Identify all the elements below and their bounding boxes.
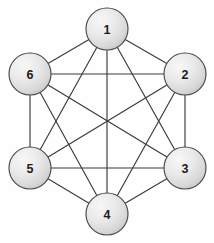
graph-diagram: 123456 <box>0 0 214 243</box>
graph-node-4[interactable]: 4 <box>86 193 128 235</box>
graph-canvas: 123456 <box>0 0 214 243</box>
node-circle-5[interactable] <box>9 147 51 189</box>
node-circle-6[interactable] <box>9 53 51 95</box>
graph-edge-1-3 <box>107 29 185 168</box>
node-circle-3[interactable] <box>164 147 206 189</box>
graph-edge-4-6 <box>30 74 107 214</box>
graph-node-3[interactable]: 3 <box>164 147 206 189</box>
graph-node-1[interactable]: 1 <box>86 8 128 50</box>
edges-layer <box>30 29 185 214</box>
node-circle-1[interactable] <box>86 8 128 50</box>
graph-node-2[interactable]: 2 <box>164 53 206 95</box>
graph-node-6[interactable]: 6 <box>9 53 51 95</box>
node-circle-2[interactable] <box>164 53 206 95</box>
graph-node-5[interactable]: 5 <box>9 147 51 189</box>
graph-edge-1-5 <box>30 29 107 168</box>
node-circle-4[interactable] <box>86 193 128 235</box>
